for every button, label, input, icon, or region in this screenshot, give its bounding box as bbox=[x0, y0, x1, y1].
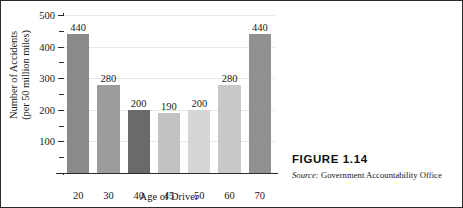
y-tick-label: 200 bbox=[39, 104, 55, 115]
bar: 440 bbox=[67, 34, 89, 173]
source-prefix: Source: bbox=[292, 170, 319, 180]
bar-value-label: 440 bbox=[252, 22, 268, 33]
y-tick-mark bbox=[58, 47, 64, 48]
y-axis-title-line-1: Number of Accidents bbox=[8, 0, 20, 150]
bar: 200 bbox=[188, 110, 210, 173]
bar-value-label: 440 bbox=[70, 22, 86, 33]
source-note: Source: Government Accountability Office bbox=[292, 170, 460, 180]
y-minor-tick-mark bbox=[59, 62, 64, 63]
y-tick-label: 500 bbox=[39, 10, 55, 21]
y-minor-tick-mark bbox=[59, 157, 64, 158]
y-minor-tick-mark bbox=[59, 31, 64, 32]
y-minor-tick-mark bbox=[59, 126, 64, 127]
bar-value-label: 280 bbox=[222, 73, 238, 84]
bar-value-label: 200 bbox=[191, 98, 207, 109]
y-tick-label: 400 bbox=[39, 41, 55, 52]
y-axis-title-line-2: (per 50 million miles) bbox=[20, 0, 32, 150]
gridline bbox=[63, 47, 275, 48]
gridline bbox=[63, 15, 275, 16]
y-tick-mark bbox=[58, 141, 64, 142]
y-tick-mark bbox=[58, 15, 64, 16]
figure-caption: FIGURE 1.14 Source: Government Accountab… bbox=[292, 153, 460, 180]
gridline bbox=[63, 78, 275, 79]
y-minor-tick-mark bbox=[59, 94, 64, 95]
bar-value-label: 190 bbox=[161, 101, 177, 112]
bar: 280 bbox=[97, 85, 119, 173]
figure-container: Number of Accidents (per 50 million mile… bbox=[0, 0, 463, 208]
bar-chart: Number of Accidents (per 50 million mile… bbox=[1, 1, 286, 207]
plot-area: 100200300400500 440280200190200280440 20… bbox=[63, 15, 275, 173]
bar: 280 bbox=[218, 85, 240, 173]
y-axis-title: Number of Accidents (per 50 million mile… bbox=[8, 0, 32, 150]
x-axis-line bbox=[56, 173, 278, 174]
figure-number-label: FIGURE 1.14 bbox=[292, 153, 460, 165]
source-text: Government Accountability Office bbox=[321, 170, 442, 180]
bar: 440 bbox=[249, 34, 271, 173]
y-tick-mark bbox=[58, 78, 64, 79]
bar: 190 bbox=[158, 113, 180, 173]
bar: 200 bbox=[128, 110, 150, 173]
y-tick-label: 100 bbox=[39, 136, 55, 147]
bar-value-label: 200 bbox=[131, 98, 147, 109]
y-tick-mark bbox=[58, 110, 64, 111]
y-tick-label: 300 bbox=[39, 73, 55, 84]
bar-value-label: 280 bbox=[101, 73, 117, 84]
x-axis-title: Age of Driver bbox=[63, 191, 275, 202]
